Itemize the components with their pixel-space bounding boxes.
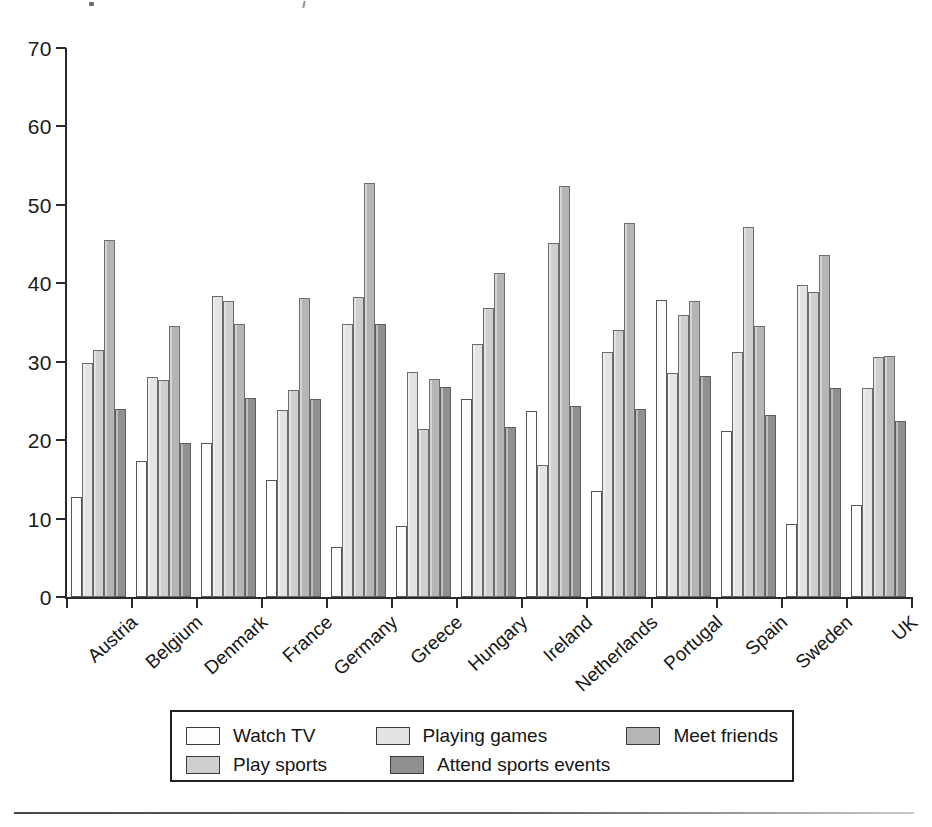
bar-ireland-meet-friends — [559, 186, 570, 597]
y-tick-label: 70 — [28, 38, 52, 59]
bar-spain-attend-sports-events — [765, 415, 776, 597]
bar-belgium-playing-games — [147, 377, 158, 597]
bar-group-belgium — [136, 48, 191, 597]
bar-group-sweden — [786, 48, 841, 597]
x-label-uk: UK — [889, 612, 921, 644]
y-tick-label: 0 — [40, 587, 52, 608]
x-tick-mark — [781, 597, 783, 608]
bar-group-spain — [721, 48, 776, 597]
bar-greece-playing-games — [407, 372, 418, 597]
bar-uk-meet-friends — [884, 356, 895, 597]
legend-swatch-icon — [186, 756, 220, 774]
x-label-germany: Germany — [330, 612, 401, 678]
x-tick-mark — [261, 597, 263, 608]
y-tick-label: 60 — [28, 116, 52, 137]
bar-group-netherlands — [591, 48, 646, 597]
legend-swatch-icon — [626, 727, 660, 745]
bar-group-austria — [71, 48, 126, 597]
bar-group-germany — [331, 48, 386, 597]
scan-artifact-top-left — [89, 2, 94, 6]
y-tick-label: 50 — [28, 194, 52, 215]
bar-hungary-meet-friends — [494, 273, 505, 597]
bar-portugal-meet-friends — [689, 301, 700, 597]
x-tick-mark — [131, 597, 133, 608]
bar-portugal-play-sports — [678, 315, 689, 597]
bar-spain-play-sports — [743, 227, 754, 597]
y-tick-mark — [56, 47, 66, 49]
bar-ireland-watch-tv — [526, 411, 537, 597]
page-bottom-rule — [14, 812, 914, 814]
bar-denmark-watch-tv — [201, 443, 212, 598]
bar-groups — [66, 48, 911, 597]
bar-group-portugal — [656, 48, 711, 597]
bar-germany-meet-friends — [364, 183, 375, 597]
x-tick-mark — [716, 597, 718, 608]
bar-group-uk — [851, 48, 906, 597]
x-label-france: France — [279, 612, 336, 666]
bar-spain-playing-games — [732, 352, 743, 597]
bar-netherlands-attend-sports-events — [635, 409, 646, 597]
x-tick-mark — [521, 597, 523, 608]
bar-sweden-playing-games — [797, 285, 808, 597]
y-tick-mark — [56, 204, 66, 206]
x-tick-mark — [651, 597, 653, 608]
bar-france-play-sports — [288, 390, 299, 597]
bar-netherlands-playing-games — [602, 352, 613, 597]
bar-greece-watch-tv — [396, 526, 407, 597]
bar-group-hungary — [461, 48, 516, 597]
x-tick-mark — [456, 597, 458, 608]
x-label-greece: Greece — [407, 612, 466, 668]
bar-france-playing-games — [277, 410, 288, 597]
bar-portugal-playing-games — [667, 373, 678, 597]
bar-spain-watch-tv — [721, 431, 732, 597]
x-label-spain: Spain — [742, 612, 791, 659]
x-tick-mark — [196, 597, 198, 608]
bar-ireland-attend-sports-events — [570, 406, 581, 597]
legend-label: Playing games — [423, 726, 548, 745]
legend-swatch-icon — [390, 756, 424, 774]
legend-label: Meet friends — [673, 726, 778, 745]
x-tick-mark — [911, 597, 913, 608]
bar-sweden-attend-sports-events — [830, 388, 841, 597]
y-tick-mark — [56, 518, 66, 520]
legend-row-2: Play sportsAttend sports events — [186, 750, 778, 779]
bar-greece-attend-sports-events — [440, 387, 451, 597]
y-tick-mark — [56, 361, 66, 363]
legend-label: Watch TV — [233, 726, 315, 745]
x-tick-mark — [326, 597, 328, 608]
bar-france-meet-friends — [299, 298, 310, 597]
bar-belgium-meet-friends — [169, 326, 180, 597]
bar-denmark-playing-games — [212, 296, 223, 597]
bar-netherlands-watch-tv — [591, 491, 602, 597]
bar-belgium-attend-sports-events — [180, 443, 191, 597]
y-tick-mark — [56, 282, 66, 284]
bar-belgium-watch-tv — [136, 461, 147, 597]
bar-germany-playing-games — [342, 324, 353, 597]
legend-row-1: Watch TVPlaying gamesMeet friends — [186, 721, 778, 750]
x-tick-mark — [391, 597, 393, 608]
bar-group-ireland — [526, 48, 581, 597]
bar-netherlands-meet-friends — [624, 223, 635, 597]
plot-area: 010203040506070 — [66, 48, 911, 597]
x-axis-line — [65, 597, 911, 599]
bar-greece-play-sports — [418, 429, 429, 597]
bar-sweden-play-sports — [808, 292, 819, 597]
bar-hungary-playing-games — [472, 344, 483, 597]
bar-hungary-play-sports — [483, 308, 494, 597]
bar-austria-watch-tv — [71, 497, 82, 597]
bar-germany-attend-sports-events — [375, 324, 386, 597]
y-tick-mark — [56, 439, 66, 441]
bar-ireland-playing-games — [537, 465, 548, 597]
legend-item-meet-friends: Meet friends — [626, 726, 778, 745]
grouped-bar-chart: 010203040506070 AustriaBelgiumDenmarkFra… — [0, 0, 932, 827]
y-tick-label: 30 — [28, 351, 52, 372]
x-label-ireland: Ireland — [540, 612, 596, 665]
y-tick-label: 10 — [28, 508, 52, 529]
bar-group-greece — [396, 48, 451, 597]
y-tick-label: 20 — [28, 430, 52, 451]
y-tick-mark — [56, 125, 66, 127]
bar-france-attend-sports-events — [310, 399, 321, 597]
x-tick-mark — [586, 597, 588, 608]
bar-belgium-play-sports — [158, 380, 169, 597]
legend-label: Play sports — [233, 755, 327, 774]
